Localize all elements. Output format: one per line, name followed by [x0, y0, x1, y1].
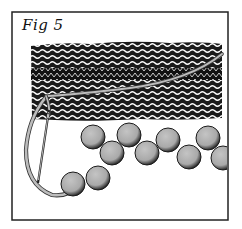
figure-illustration: [0, 0, 242, 229]
bead: [100, 141, 124, 165]
bead: [156, 128, 180, 152]
bead: [211, 146, 235, 170]
bead: [117, 123, 141, 147]
bead: [135, 141, 159, 165]
knitted-fabric: [31, 42, 222, 121]
bead: [86, 166, 110, 190]
bead: [81, 125, 105, 149]
bead: [61, 172, 85, 196]
bead: [177, 145, 201, 169]
figure-caption: Fig 5: [22, 16, 64, 34]
bead: [196, 126, 220, 150]
